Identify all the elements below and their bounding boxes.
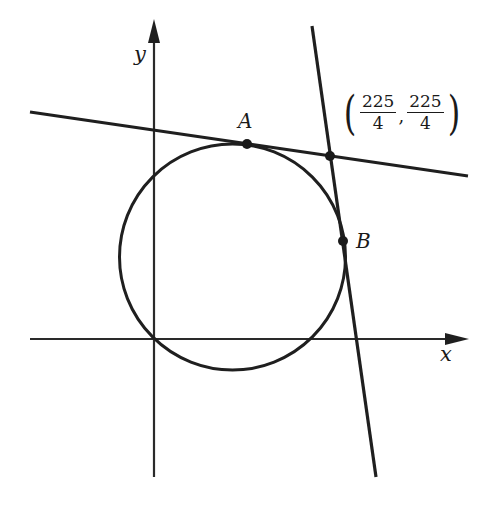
x-numerator: 225 xyxy=(360,93,396,113)
y-numerator: 225 xyxy=(407,93,443,113)
y-axis xyxy=(148,19,160,477)
intersection-coordinate-label: ( 225 4 , 225 4 ) xyxy=(341,90,463,136)
close-paren: ) xyxy=(447,90,460,136)
point-b-marker xyxy=(338,236,348,246)
point-a-marker xyxy=(242,139,252,149)
y-fraction: 225 4 xyxy=(407,93,443,133)
diagram-canvas xyxy=(0,0,500,510)
x-axis xyxy=(30,333,469,345)
open-paren: ( xyxy=(344,90,357,136)
point-b-label: B xyxy=(356,231,371,251)
y-axis-label: y xyxy=(134,44,146,65)
x-denominator: 4 xyxy=(373,113,384,133)
diagram-figure: y x A B ( 225 4 , 225 4 ) xyxy=(0,0,500,510)
coordinate-comma: , xyxy=(398,105,404,126)
x-fraction: 225 4 xyxy=(360,93,396,133)
y-denominator: 4 xyxy=(420,113,431,133)
y-axis-arrow-icon xyxy=(148,19,160,43)
point-a-label: A xyxy=(238,111,252,131)
x-axis-label: x xyxy=(440,344,452,365)
intersection-point-marker xyxy=(325,151,335,161)
